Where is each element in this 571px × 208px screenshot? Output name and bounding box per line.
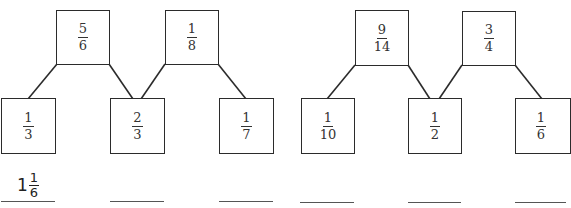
- top-box: 5 6: [56, 10, 110, 65]
- answer-fraction: 1 6: [29, 172, 39, 199]
- connector-line: [218, 64, 246, 99]
- fraction: 1 8: [187, 22, 197, 53]
- top-box: 1 8: [165, 10, 219, 65]
- numerator: 5: [78, 22, 88, 38]
- fraction: 9 14: [374, 23, 391, 54]
- fraction: 1 10: [320, 111, 337, 142]
- denominator: 4: [485, 39, 493, 54]
- answer-whole: 1: [17, 175, 28, 195]
- denominator: 6: [79, 38, 87, 53]
- denominator: 2: [431, 127, 439, 142]
- answer-numerator: 1: [29, 172, 39, 186]
- bottom-box: 1 7: [219, 98, 274, 154]
- bottom-box: 1 6: [515, 98, 571, 154]
- denominator: 3: [24, 127, 32, 142]
- denominator: 8: [188, 38, 196, 53]
- denominator: 10: [320, 127, 337, 142]
- connector-line: [327, 65, 355, 99]
- answer-blank[interactable]: [1, 201, 55, 202]
- numerator: 9: [377, 23, 387, 39]
- denominator: 7: [242, 127, 250, 142]
- numerator: 3: [484, 23, 494, 39]
- fraction: 1 3: [23, 111, 33, 142]
- numerator: 1: [23, 111, 33, 127]
- connector-line: [141, 64, 165, 99]
- answer-blank[interactable]: [408, 202, 461, 203]
- connector-line: [408, 65, 430, 99]
- numerator: 1: [430, 111, 440, 127]
- answer-blank[interactable]: [300, 202, 354, 203]
- answer-blank[interactable]: [219, 201, 273, 202]
- denominator: 14: [374, 39, 391, 54]
- denominator: 6: [537, 127, 545, 142]
- answer-blank[interactable]: [110, 201, 164, 202]
- numerator: 1: [323, 111, 333, 127]
- answer-blank[interactable]: [515, 202, 566, 203]
- connector-line: [515, 65, 542, 99]
- connector-line: [109, 64, 133, 99]
- fraction: 3 4: [484, 23, 494, 54]
- numerator: 2: [132, 111, 142, 127]
- answer-denominator: 6: [30, 186, 38, 199]
- top-box: 3 4: [462, 11, 516, 66]
- numerator: 1: [241, 111, 251, 127]
- bottom-box: 1 10: [301, 98, 355, 154]
- connector-line: [28, 64, 57, 99]
- connector-line: [439, 65, 462, 99]
- bottom-box: 1 2: [408, 98, 462, 154]
- bottom-box: 2 3: [110, 98, 165, 154]
- fraction: 1 2: [430, 111, 440, 142]
- fraction: 1 7: [241, 111, 251, 142]
- fraction: 5 6: [78, 22, 88, 53]
- denominator: 3: [133, 127, 141, 142]
- answer-text: 1 1 6: [17, 172, 39, 198]
- fraction: 1 6: [536, 111, 546, 142]
- numerator: 1: [536, 111, 546, 127]
- fraction: 2 3: [132, 111, 142, 142]
- top-box: 9 14: [355, 10, 409, 66]
- numerator: 1: [187, 22, 197, 38]
- bottom-box: 1 3: [1, 98, 56, 154]
